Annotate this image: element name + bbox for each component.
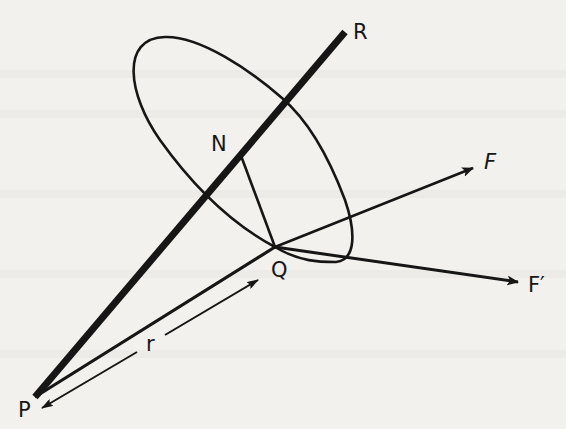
line-NQ: [240, 153, 275, 247]
label-Q: Q: [271, 260, 288, 281]
label-F: F: [484, 152, 496, 173]
axis-line-PR: [35, 32, 345, 397]
label-F-prime: F′: [528, 275, 545, 296]
line-PQ: [35, 247, 275, 397]
diagram-canvas: R N F Q F′ r P: [0, 0, 566, 429]
label-R: R: [353, 22, 368, 43]
label-P: P: [18, 400, 31, 421]
vector-F: [275, 168, 473, 247]
label-N: N: [211, 134, 227, 155]
label-r: r: [146, 334, 155, 355]
vector-F-prime: [275, 247, 518, 282]
diagram-svg: [0, 0, 566, 429]
distance-r-arrow-to-P: [42, 352, 137, 408]
